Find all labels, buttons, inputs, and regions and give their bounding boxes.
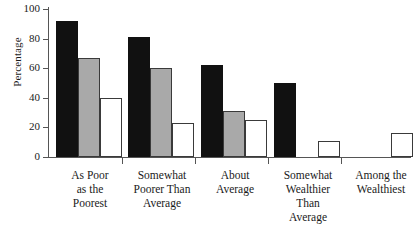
y-axis-tick-label: 20 [0, 121, 40, 132]
x-axis-tick [341, 158, 342, 164]
bar [391, 133, 413, 157]
bar [201, 65, 223, 157]
y-axis-tick [43, 157, 49, 158]
bar [318, 141, 340, 157]
x-axis-line [48, 157, 411, 158]
bar [78, 58, 100, 157]
x-axis-category-label: Among the Wealthiest [336, 168, 416, 196]
x-axis-tick [195, 158, 196, 164]
bar [150, 68, 172, 157]
bar [274, 83, 296, 157]
bar [223, 111, 245, 157]
x-axis-tick [268, 158, 269, 164]
y-axis-tick-label: 60 [0, 62, 40, 73]
bar [56, 21, 78, 157]
bar [100, 98, 122, 157]
bar [245, 120, 267, 157]
y-axis-tick-label: 100 [0, 3, 40, 14]
bar-chart: Percentage 020406080100 As Poor as the P… [0, 0, 416, 229]
y-axis-tick-label: 40 [0, 92, 40, 103]
y-axis-tick-label: 0 [0, 151, 40, 162]
y-axis-tick-label: 80 [0, 33, 40, 44]
plot-area [48, 9, 411, 157]
bar [172, 123, 194, 157]
x-axis-tick [122, 158, 123, 164]
bar [128, 37, 150, 157]
